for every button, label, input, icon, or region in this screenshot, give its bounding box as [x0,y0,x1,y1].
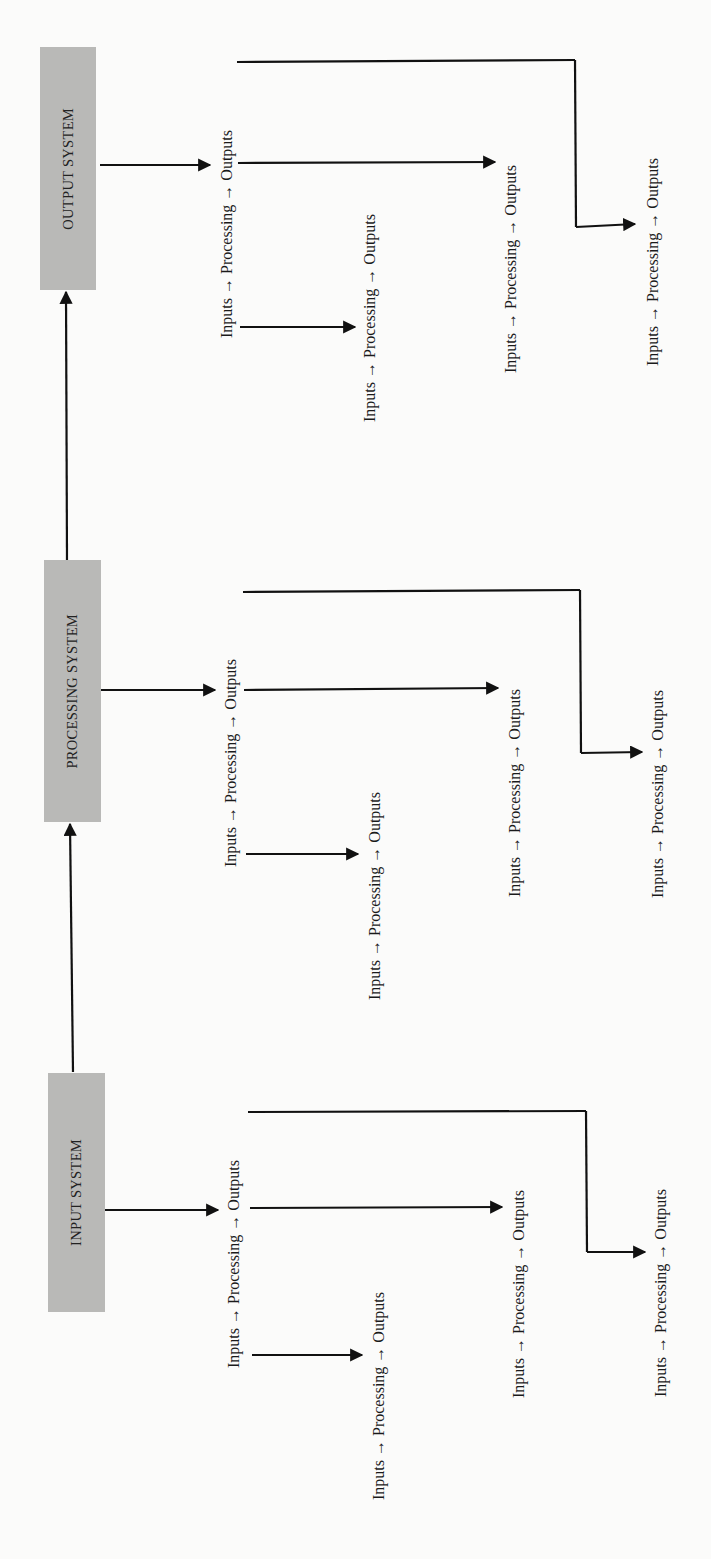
input-system-label: INPUT SYSTEM [68,1139,85,1246]
output-flow-from-processing: Inputs → Processing → Outputs [502,165,520,373]
connector-lines [0,0,711,1559]
processing-flow-from-inputs: Inputs → Processing → Outputs [366,792,384,1000]
input-flow-main: Inputs → Processing → Outputs [225,1160,243,1368]
input-system-box: INPUT SYSTEM [48,1073,105,1312]
input-flow-from-processing: Inputs → Processing → Outputs [510,1190,528,1398]
processing-system-box: PROCESSING SYSTEM [44,560,101,822]
processing-system-label: PROCESSING SYSTEM [64,614,81,769]
processing-flow-main: Inputs → Processing → Outputs [222,659,240,867]
arrow-processing-to-output [66,292,67,560]
output-flow-main: Inputs → Processing → Outputs [218,130,236,338]
output-system-box: OUTPUT SYSTEM [40,47,96,290]
output-system-label: OUTPUT SYSTEM [60,108,77,230]
arrow-input-to-processing [70,824,73,1072]
processing-flow-from-outputs: Inputs → Processing → Outputs [649,690,667,898]
processing-flow-from-processing: Inputs → Processing → Outputs [506,689,524,897]
output-flow-from-outputs: Inputs → Processing → Outputs [644,158,662,366]
input-flow-from-outputs: Inputs → Processing → Outputs [652,1189,670,1397]
output-flow-from-inputs: Inputs → Processing → Outputs [361,214,379,422]
input-flow-from-inputs: Inputs → Processing → Outputs [370,1292,388,1500]
